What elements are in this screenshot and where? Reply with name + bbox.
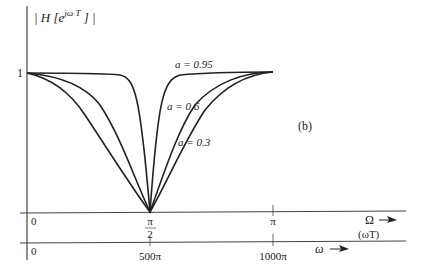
label-a-0.3: a = 0.3 [178,136,211,148]
curve-a-0.6 [27,72,273,212]
x-axis-omega-cap [20,211,406,213]
panel-label: (b) [298,119,312,133]
x-tick-1000pi: 1000π [259,250,287,262]
curve-a-0.3 [27,72,273,212]
label-a-0.95: a = 0.95 [175,58,213,70]
y-tick-1: 1 [17,66,23,80]
x-tick-pi-over-2-den: 2 [147,228,153,240]
x-tick-0-top: 0 [31,215,37,227]
x-axis-label-omega: ω [315,242,323,256]
x-axis-label-omega-cap: Ω [365,213,374,227]
x-tick-pi: π [270,215,276,227]
curves [27,72,273,212]
x-axis-omega [20,241,406,243]
frequency-response-chart: | H [ejω T ] | 1 a = 0.95 a = 0.6 a = 0.… [0,0,424,274]
x-tick-pi-over-2-num: π [147,215,153,227]
y-axis-label: | H [ejω T ] | [34,8,96,25]
curve-a-0.95 [27,72,273,212]
label-a-0.6: a = 0.6 [167,100,200,112]
x-tick-500pi: 500π [139,250,162,262]
x-axis-label-omega-t: (ωT) [358,228,380,241]
x-tick-0-bottom: 0 [31,245,37,257]
